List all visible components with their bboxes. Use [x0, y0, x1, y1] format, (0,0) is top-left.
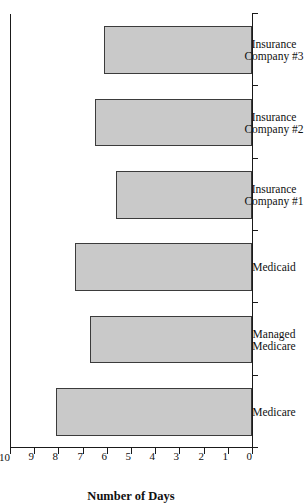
value-axis-tick-label: 4 — [150, 452, 156, 463]
value-axis-tick-label: 8 — [53, 452, 59, 463]
bar — [95, 99, 252, 147]
category-axis-tick — [252, 230, 258, 231]
bar-slot — [10, 14, 252, 86]
bar — [116, 171, 252, 219]
bar-series — [10, 14, 252, 448]
category-axis-label: Medicare — [252, 406, 295, 418]
value-axis-tick-label: 9 — [29, 452, 35, 463]
category-axis-tick — [252, 13, 258, 14]
category-axis-tick — [252, 85, 258, 86]
value-axis-tick — [179, 448, 180, 454]
value-axis-tick-label: 7 — [77, 452, 83, 463]
value-axis-title: Number of Days — [87, 489, 174, 504]
category-axis-label-line: Insurance — [244, 38, 303, 50]
category-axis-label-line: Insurance — [244, 110, 303, 122]
category-axis-label-line: Insurance — [244, 182, 303, 194]
category-axis: MedicareManagedMedicareMedicaidInsurance… — [252, 14, 296, 448]
category-label-slot: Medicare — [252, 376, 296, 448]
value-axis-tick-label: 1 — [222, 452, 228, 463]
category-axis-label-line: Company #2 — [244, 123, 303, 135]
category-axis-label: InsuranceCompany #1 — [244, 182, 303, 207]
bar-slot — [10, 303, 252, 375]
bar-slot — [10, 376, 252, 448]
value-axis-tick-label: 5 — [126, 452, 132, 463]
category-axis-tick — [252, 447, 258, 448]
category-axis-label-line: Medicaid — [252, 261, 295, 273]
value-axis-tick-label: 2 — [198, 452, 204, 463]
value-axis-tick — [58, 448, 59, 454]
category-axis-label-line: Medicare — [252, 340, 295, 352]
bar — [56, 388, 252, 436]
bar — [104, 26, 252, 74]
category-axis-tick — [252, 302, 258, 303]
value-axis-tick — [10, 448, 11, 454]
bar-slot — [10, 231, 252, 303]
category-axis-label: Medicaid — [252, 261, 295, 273]
category-label-slot: InsuranceCompany #2 — [252, 86, 296, 158]
category-label-slot: InsuranceCompany #3 — [252, 14, 296, 86]
category-axis-labels: MedicareManagedMedicareMedicaidInsurance… — [252, 14, 296, 448]
bar — [90, 316, 252, 364]
value-axis-tick-label: 6 — [101, 452, 107, 463]
category-axis-tick — [252, 158, 258, 159]
value-axis-tick-label: 10 — [0, 452, 10, 463]
category-label-slot: InsuranceCompany #1 — [252, 159, 296, 231]
value-axis-tick-label: 3 — [174, 452, 180, 463]
value-axis-tick-label: 0 — [247, 452, 253, 463]
bar-slot — [10, 159, 252, 231]
category-axis-label-line: Managed — [252, 327, 295, 339]
category-axis-label-line: Company #3 — [244, 50, 303, 62]
category-axis-tick — [252, 375, 258, 376]
category-axis-label-line: Company #1 — [244, 195, 303, 207]
bar-slot — [10, 86, 252, 158]
category-label-slot: Medicaid — [252, 231, 296, 303]
bar — [75, 243, 252, 291]
category-label-slot: ManagedMedicare — [252, 303, 296, 375]
category-axis-label: InsuranceCompany #3 — [244, 38, 303, 63]
category-axis-label: ManagedMedicare — [252, 327, 295, 352]
category-axis-label-line: Medicare — [252, 406, 295, 418]
category-axis-label: InsuranceCompany #2 — [244, 110, 303, 135]
